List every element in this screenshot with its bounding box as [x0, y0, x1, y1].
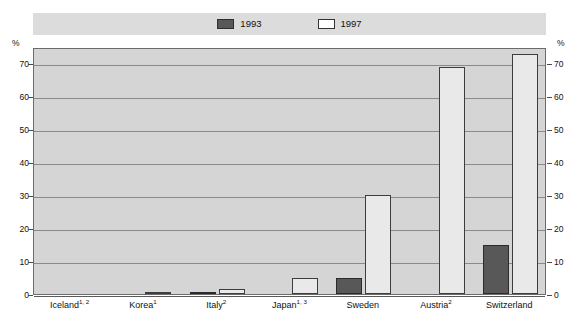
y-tick-mark-right-10 — [547, 262, 552, 263]
chart-legend: 1993 1997 — [33, 13, 546, 35]
y-tick-mark-left-50 — [28, 130, 33, 131]
y-tick-label-right-70: 70 — [554, 60, 578, 68]
legend-item-1997[interactable]: 1997 — [318, 19, 362, 29]
y-tick-mark-right-40 — [547, 163, 552, 164]
legend-label-1997: 1997 — [341, 19, 362, 29]
bar-1997-korea[interactable] — [145, 292, 171, 294]
bar-series-container — [34, 49, 545, 294]
y-tick-mark-left-40 — [28, 163, 33, 164]
y-tick-label-left-50: 50 — [5, 126, 29, 134]
y-tick-label-left-30: 30 — [5, 192, 29, 200]
plot-area — [33, 48, 546, 295]
bar-group — [107, 49, 180, 294]
y-tick-label-right-10: 10 — [554, 258, 578, 266]
chart-root: 1993 1997 % % 010203040506070 0102030405… — [0, 0, 579, 329]
x-axis-label-iceland: Iceland1, 2 — [33, 300, 106, 310]
x-axis-label-sweden: Sweden — [326, 300, 399, 310]
y-tick-mark-left-60 — [28, 97, 33, 98]
bar-1997-japan[interactable] — [292, 278, 318, 294]
y-tick-mark-left-30 — [28, 196, 33, 197]
y-tick-mark-left-20 — [28, 229, 33, 230]
bar-1993-switzerland[interactable] — [483, 245, 509, 294]
y-tick-label-left-10: 10 — [5, 258, 29, 266]
y-tick-label-right-50: 50 — [554, 126, 578, 134]
y-tick-mark-right-20 — [547, 229, 552, 230]
y-tick-label-right-30: 30 — [554, 192, 578, 200]
y-tick-mark-right-50 — [547, 130, 552, 131]
y-tick-label-left-70: 70 — [5, 60, 29, 68]
bar-1993-sweden[interactable] — [336, 278, 362, 294]
bar-1993-italy[interactable] — [190, 292, 216, 294]
y-tick-mark-left-70 — [28, 64, 33, 65]
legend-swatch-1997-icon — [318, 19, 335, 29]
legend-label-1993: 1993 — [240, 19, 261, 29]
bar-group — [181, 49, 254, 294]
y-axis-unit-right: % — [557, 38, 565, 48]
gridline-0 — [34, 296, 545, 297]
x-axis-label-italy: Italy2 — [180, 300, 253, 310]
x-axis-label-korea: Korea1 — [106, 300, 179, 310]
bar-1997-sweden[interactable] — [365, 195, 391, 294]
bar-1997-italy[interactable] — [219, 289, 245, 294]
y-tick-label-left-40: 40 — [5, 159, 29, 167]
y-tick-mark-right-0 — [547, 295, 552, 296]
x-axis-label-japan: Japan1, 3 — [253, 300, 326, 310]
y-tick-mark-right-70 — [547, 64, 552, 65]
bar-group — [254, 49, 327, 294]
y-tick-label-right-60: 60 — [554, 93, 578, 101]
y-tick-label-right-40: 40 — [554, 159, 578, 167]
legend-swatch-1993-icon — [217, 19, 234, 29]
x-axis-label-switzerland: Switzerland — [473, 300, 546, 310]
y-axis-unit-left: % — [12, 38, 20, 48]
x-axis-label-austria: Austria2 — [399, 300, 472, 310]
bar-1997-switzerland[interactable] — [512, 54, 538, 294]
bar-group — [400, 49, 473, 294]
legend-item-1993[interactable]: 1993 — [217, 19, 261, 29]
x-axis-labels: Iceland1, 2Korea1Italy2Japan1, 3SwedenAu… — [33, 300, 546, 316]
y-tick-label-left-20: 20 — [5, 225, 29, 233]
y-tick-label-right-0: 0 — [554, 291, 578, 299]
y-tick-label-right-20: 20 — [554, 225, 578, 233]
y-tick-mark-left-10 — [28, 262, 33, 263]
y-tick-mark-right-60 — [547, 97, 552, 98]
bar-group — [34, 49, 107, 294]
y-tick-mark-left-0 — [28, 295, 33, 296]
bar-1997-austria[interactable] — [439, 67, 465, 294]
y-tick-label-left-60: 60 — [5, 93, 29, 101]
bar-group — [474, 49, 547, 294]
y-tick-label-left-0: 0 — [5, 291, 29, 299]
y-tick-mark-right-30 — [547, 196, 552, 197]
bar-group — [327, 49, 400, 294]
